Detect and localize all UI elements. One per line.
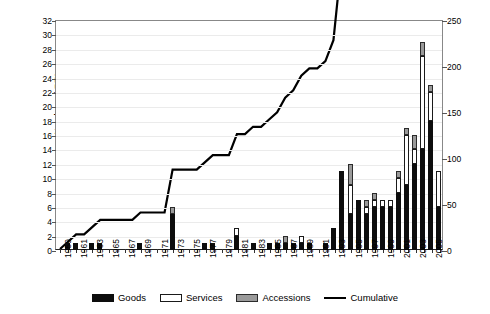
bar-segment-accessions <box>428 85 433 92</box>
bar-column <box>420 42 425 250</box>
y-axis-left-tick-mark <box>52 251 56 252</box>
y-axis-left-tick-label: 32 <box>26 16 52 26</box>
y-axis-left-tick-label: 30 <box>26 30 52 40</box>
bar-segment-goods <box>267 243 272 250</box>
y-axis-left-tick-mark <box>52 136 56 137</box>
legend-label: Accessions <box>262 292 310 303</box>
y-axis-left-tick-label: 20 <box>26 102 52 112</box>
bar-column <box>396 171 401 250</box>
y-axis-left-tick-mark <box>52 79 56 80</box>
bar-segment-services <box>348 185 353 214</box>
bar-segment-services <box>428 92 433 121</box>
bar-segment-goods <box>283 243 288 250</box>
y-axis-right-tick-label: 50 <box>447 200 473 210</box>
bar-segment-accessions <box>372 193 377 200</box>
y-axis-left-tick-label: 12 <box>26 160 52 170</box>
y-axis-right-tick-label: 150 <box>447 108 473 118</box>
y-axis-left-tick-label: 16 <box>26 131 52 141</box>
bar-segment-services <box>380 200 385 207</box>
bar-segment-goods <box>364 214 369 250</box>
legend-item[interactable]: Goods <box>92 292 146 303</box>
x-axis-tick-label: 2001 <box>402 239 412 258</box>
bar-column <box>202 243 207 250</box>
x-axis-tick-label: 1981 <box>240 239 250 258</box>
y-axis-left-tick-label: 8 <box>26 189 52 199</box>
y-axis-left-tick-mark <box>52 64 56 65</box>
bar-segment-services <box>234 228 239 235</box>
bar-segment-goods <box>420 149 425 250</box>
y-axis-left-tick-label: 4 <box>26 217 52 227</box>
bar-segment-services <box>404 135 409 185</box>
bar-segment-accessions <box>412 135 417 149</box>
bar-column <box>428 85 433 250</box>
x-axis-tick-label: 1995 <box>354 239 364 258</box>
y-axis-right-tick-label: 250 <box>447 16 473 26</box>
y-axis-right-tick-mark <box>442 67 447 68</box>
x-axis-tick-mark <box>60 249 61 253</box>
bar-segment-goods <box>428 121 433 250</box>
x-axis-tick-label: 1989 <box>305 239 315 258</box>
legend-item[interactable]: Services <box>160 292 222 303</box>
x-axis-tick-label: 1987 <box>289 239 299 258</box>
x-axis-tick-label: 1973 <box>176 239 186 258</box>
y-axis-right-tick-label: 200 <box>447 62 473 72</box>
legend-item[interactable]: Accessions <box>236 292 310 303</box>
gridline <box>56 136 442 137</box>
x-axis-tick-mark <box>319 249 320 253</box>
y-axis-left-tick-label: 0 <box>26 246 52 256</box>
x-axis-tick-label: 1961 <box>79 239 89 258</box>
bar-segment-goods <box>170 214 175 250</box>
bar-segment-accessions <box>283 236 288 243</box>
x-axis-tick-label: 1997 <box>370 239 380 258</box>
chart-legend: GoodsServicesAccessionsCumulative <box>0 292 490 303</box>
bar-segment-goods <box>396 193 401 251</box>
y-axis-left-tick-mark <box>52 122 56 123</box>
y-axis-left-tick-mark <box>52 179 56 180</box>
bar-segment-services <box>364 207 369 214</box>
legend-item[interactable]: Cumulative <box>324 292 398 303</box>
y-axis-left-tick-label: 28 <box>26 45 52 55</box>
x-axis-tick-label: 2005 <box>434 239 444 258</box>
y-axis-left-tick-label: 2 <box>26 232 52 242</box>
bar-column <box>283 236 288 250</box>
y-axis-left-tick-label: 10 <box>26 174 52 184</box>
x-axis-tick-label: 1999 <box>386 239 396 258</box>
bar-column <box>137 243 142 250</box>
bar-segment-goods <box>412 164 417 250</box>
bar-column <box>348 164 353 250</box>
bar-segment-services <box>299 236 304 243</box>
x-axis-tick-label: 1965 <box>111 239 121 258</box>
y-axis-left-tick-label: 22 <box>26 88 52 98</box>
y-axis-right-tick-mark <box>442 159 447 160</box>
bar-column <box>364 200 369 250</box>
bar-segment-accessions <box>348 164 353 186</box>
legend-label: Services <box>186 292 222 303</box>
legend-swatch-accessions <box>236 294 258 302</box>
bar-column <box>412 135 417 250</box>
bar-segment-services <box>436 171 441 207</box>
x-axis-tick-mark <box>189 249 190 253</box>
y-axis-right-tick-label: 100 <box>447 154 473 164</box>
gridline <box>56 107 442 108</box>
x-axis-tick-label: 1969 <box>143 239 153 258</box>
bar-segment-goods <box>251 243 256 250</box>
x-axis-tick-label: 1975 <box>192 239 202 258</box>
y-axis-left-tick-mark <box>52 150 56 151</box>
x-axis-tick-mark <box>125 249 126 253</box>
gridline <box>56 64 442 65</box>
bar-segment-goods <box>202 243 207 250</box>
gridline <box>56 93 442 94</box>
bar-segment-goods <box>331 228 336 250</box>
x-axis-tick-mark <box>157 249 158 253</box>
bar-column <box>170 207 175 250</box>
bar-column <box>234 228 239 250</box>
bar-column <box>73 243 78 250</box>
chart-container: Number of RTAs 0246810121416182022242628… <box>0 0 490 314</box>
x-axis-tick-mark <box>109 249 110 253</box>
x-axis-tick-label: 1967 <box>127 239 137 258</box>
x-axis-tick-label: 2003 <box>418 239 428 258</box>
y-axis-left-tick-label: 18 <box>26 117 52 127</box>
bar-segment-goods <box>137 243 142 250</box>
y-axis-right-tick-mark <box>442 113 447 114</box>
bar-column <box>299 236 304 250</box>
